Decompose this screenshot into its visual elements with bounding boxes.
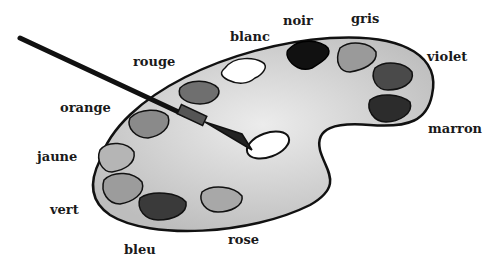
label-orange: orange	[60, 101, 111, 114]
label-gris: gris	[351, 12, 379, 25]
label-marron: marron	[428, 122, 482, 135]
palette-illustration: blanc noir gris rouge violet orange marr…	[0, 0, 489, 272]
label-jaune: jaune	[37, 150, 77, 163]
label-noir: noir	[283, 14, 313, 27]
label-vert: vert	[50, 203, 79, 216]
label-blanc: blanc	[230, 30, 270, 43]
label-violet: violet	[427, 50, 467, 63]
label-rose: rose	[228, 233, 259, 246]
paint-rouge	[179, 81, 219, 104]
label-bleu: bleu	[124, 243, 156, 256]
label-rouge: rouge	[133, 55, 175, 68]
